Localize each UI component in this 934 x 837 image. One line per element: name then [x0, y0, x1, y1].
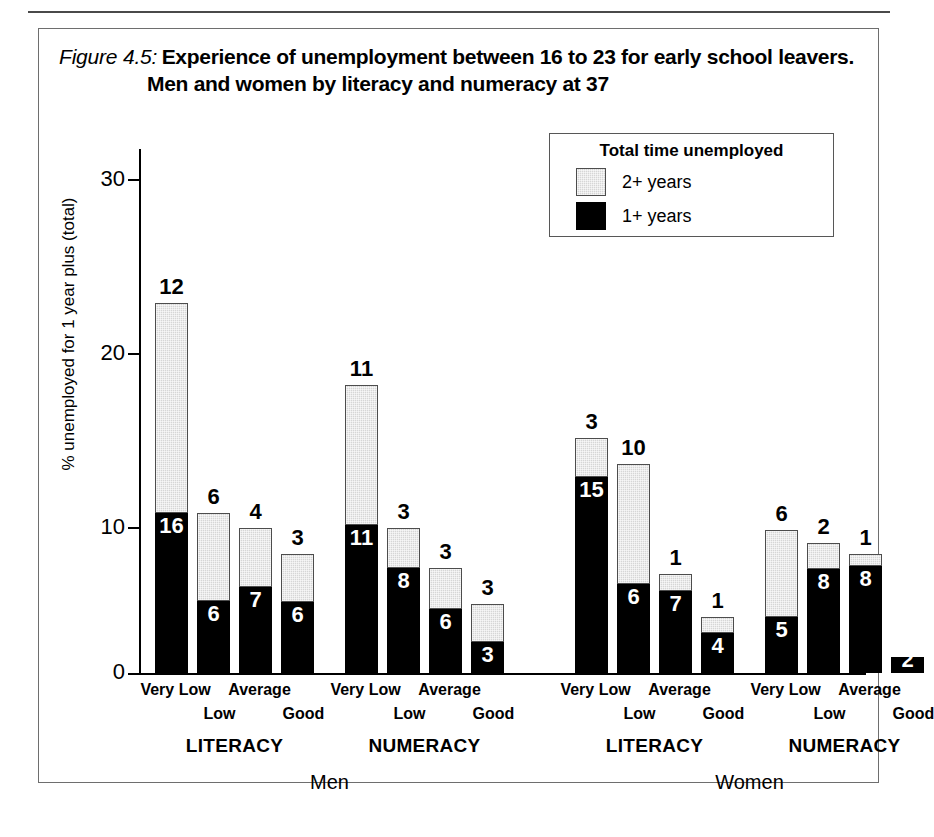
x-tick-label-good: Good [703, 705, 745, 723]
x-group-label-numeracy: NUMERACY [368, 735, 480, 757]
x-tick-label-average: Average [228, 681, 291, 699]
legend-label-2plus: 2+ years [622, 172, 692, 193]
x-tick-label-low: Low [204, 705, 236, 723]
x-sex-label-women: Women [715, 771, 784, 794]
bar-value-label-1plus: 2 [901, 649, 913, 671]
x-tick-label-low: Low [814, 705, 846, 723]
x-tick-label-very-low: Very Low [560, 681, 630, 699]
x-tick-label-average: Average [838, 681, 901, 699]
x-tick-label-average: Average [418, 681, 481, 699]
legend-label-1plus: 1+ years [622, 206, 692, 227]
x-tick-label-good: Good [893, 705, 934, 723]
x-sex-label-men: Men [310, 771, 349, 794]
x-tick-label-average: Average [648, 681, 711, 699]
legend-title: Total time unemployed [550, 141, 833, 161]
x-group-label-literacy: LITERACY [606, 735, 703, 757]
x-tick-label-very-low: Very Low [330, 681, 400, 699]
x-group-label-literacy: LITERACY [186, 735, 283, 757]
figure-frame: Figure 4.5: Experience of unemployment b… [38, 28, 879, 783]
x-tick-label-very-low: Very Low [140, 681, 210, 699]
legend-swatch-black-icon [576, 202, 606, 230]
x-tick-label-good: Good [283, 705, 325, 723]
page-top-rule [28, 11, 890, 13]
x-group-label-numeracy: NUMERACY [788, 735, 900, 757]
x-tick-label-good: Good [473, 705, 515, 723]
x-tick-label-low: Low [624, 705, 656, 723]
x-tick-label-low: Low [394, 705, 426, 723]
legend-swatch-grey-icon [576, 168, 606, 196]
x-tick-label-very-low: Very Low [750, 681, 820, 699]
legend-item-2plus[interactable]: 2+ years [576, 168, 692, 196]
legend-item-1plus[interactable]: 1+ years [576, 202, 692, 230]
chart-legend: Total time unemployed 2+ years 1+ years [549, 133, 834, 237]
